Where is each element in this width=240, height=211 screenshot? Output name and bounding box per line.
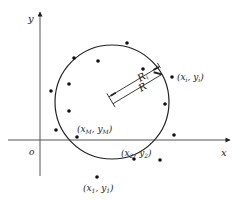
label-point-2: (x2, y2) [121,148,152,159]
label-point-1: (x1, y1) [83,183,114,194]
r-label: R [136,80,149,94]
data-point [163,102,167,106]
data-point-i [170,75,174,79]
data-point [141,67,145,71]
data-point [49,89,53,93]
x-axis-label: x [221,147,227,158]
data-point [72,56,76,60]
data-point [158,158,162,162]
data-point-1 [95,175,99,179]
data-point [125,41,129,45]
data-point [67,109,71,113]
label-point-m: (xM, yM) [77,124,113,135]
data-point [67,82,71,86]
least-squares-circle-diagram: y x o Ri R (xi, yi) (xM, yM) (x2 [0,0,240,211]
data-point-m [75,135,79,139]
data-point [54,128,58,132]
y-axis-label: y [27,13,34,24]
data-points [49,41,176,179]
data-point [96,59,100,63]
data-point [172,133,176,137]
origin-label: o [29,147,35,157]
label-point-i: (xi, yi) [177,72,204,83]
